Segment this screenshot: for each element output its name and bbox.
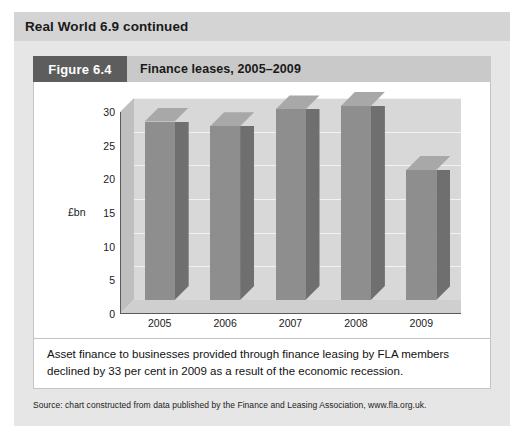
chart-x-tick-label: 2006 [203,317,247,329]
chart-y-axis [120,112,121,314]
real-world-header: Real World 6.9 continued [14,12,510,41]
chart-bar [341,106,371,300]
chart-bar [406,170,436,300]
figure-source-text: Source: chart constructed from data publ… [33,400,426,410]
chart-y-tick-label: 20 [103,173,115,185]
chart-bar-side-face [175,122,189,300]
chart-x-tick-label: 2007 [269,317,313,329]
chart-bar [276,109,306,300]
chart-x-tick-label: 2009 [399,317,443,329]
figure-caption-text: Asset finance to businesses provided thr… [47,348,449,377]
chart-x-tick-label: 2005 [138,317,182,329]
real-world-panel: Real World 6.9 continued Figure 6.4 Fina… [14,12,510,426]
figure-title: Finance leases, 2005–2009 [127,56,491,82]
chart-bar [210,126,240,300]
chart-plot-area: 051015202530 £bn 20052006200720082009 [120,98,461,314]
chart-side-wall [120,98,134,314]
chart-y-tick-label: 5 [109,274,115,286]
chart-y-tick-label: 0 [109,308,115,320]
chart-y-tick-label: 15 [103,207,115,219]
chart-bar-side-face [436,170,450,300]
chart-x-axis [120,313,461,314]
figure-number-tag: Figure 6.4 [33,56,127,82]
figure-caption: Asset finance to businesses provided thr… [33,339,491,389]
chart-bar-side-face [371,106,385,300]
real-world-header-title: Real World 6.9 continued [14,19,188,34]
chart-card: 051015202530 £bn 20052006200720082009 [33,82,491,339]
chart-y-axis-title: £bn [68,206,86,218]
chart-bar-side-face [306,109,320,300]
figure-title-bar: Figure 6.4 Finance leases, 2005–2009 [33,56,491,82]
chart-y-tick-label: 25 [103,140,115,152]
chart-y-tick-label: 10 [103,241,115,253]
chart-bar-side-face [240,126,254,300]
chart-bar-front-face [341,106,371,300]
chart-bar-front-face [145,122,175,300]
chart-floor [120,300,461,314]
chart-x-tick-label: 2008 [334,317,378,329]
chart-bar-front-face [406,170,436,300]
figure-screenshot: Real World 6.9 continued Figure 6.4 Fina… [0,0,532,444]
chart-bar [145,122,175,300]
figure-source-note: Source: chart constructed from data publ… [33,400,491,410]
chart-y-tick-label: 30 [103,106,115,118]
chart-bar-front-face [276,109,306,300]
chart-bar-front-face [210,126,240,300]
